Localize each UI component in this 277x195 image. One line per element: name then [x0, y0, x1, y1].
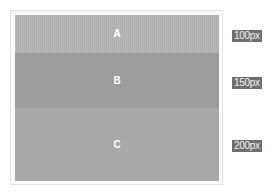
row-c: C — [15, 108, 219, 181]
row-a-label: A — [113, 29, 120, 39]
row-c-height-badge: 200px — [232, 140, 262, 152]
row-b: B — [15, 53, 219, 108]
row-a-height-badge: 100px — [232, 30, 262, 42]
row-b-label: B — [113, 76, 120, 86]
stacked-rows-container: A B C — [15, 15, 219, 181]
row-b-height-badge: 150px — [232, 77, 262, 89]
row-a: A — [15, 15, 219, 53]
row-c-label: C — [113, 140, 120, 150]
